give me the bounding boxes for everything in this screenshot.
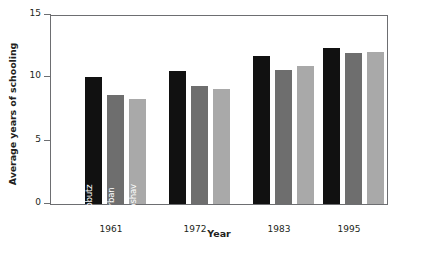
bar-1961-moshav[interactable]: Moshav (129, 99, 146, 204)
bar-1961-kibbutz[interactable]: Kibbutz (85, 77, 102, 204)
y-axis-title: Average years of schooling (4, 10, 22, 218)
plot-area: 0 5 10 15 Kibbutz Urban Moshav (50, 15, 388, 205)
bar-1983-urban[interactable] (275, 70, 292, 204)
y-tick-label-5: 5 (35, 134, 41, 144)
bar-1972-urban[interactable] (191, 86, 208, 204)
bar-1972-moshav[interactable] (213, 89, 230, 204)
bar-group-1983 (253, 16, 315, 204)
bar-label-kibbutz: Kibbutz (84, 185, 94, 216)
bar-1995-kibbutz[interactable] (323, 48, 340, 204)
bar-label-urban: Urban (106, 188, 116, 213)
y-tick-5: 5 (44, 140, 51, 141)
y-tick-label-0: 0 (35, 197, 41, 207)
bar-group-1972 (169, 16, 231, 204)
y-tick-10: 10 (44, 76, 51, 77)
bar-1972-kibbutz[interactable] (169, 71, 186, 204)
x-axis-title: Year (50, 228, 388, 239)
bar-label-moshav: Moshav (128, 184, 138, 216)
bars-layer: Kibbutz Urban Moshav (51, 16, 387, 204)
y-tick-0: 0 (44, 203, 51, 204)
bar-1983-kibbutz[interactable] (253, 56, 270, 204)
bar-1961-urban[interactable]: Urban (107, 95, 124, 204)
y-tick-label-10: 10 (30, 70, 41, 80)
bar-1995-moshav[interactable] (367, 52, 384, 204)
bar-group-1995 (323, 16, 385, 204)
bar-chart-figure: Average years of schooling 0 5 10 15 Kib… (0, 0, 423, 262)
y-tick-label-15: 15 (30, 8, 41, 18)
bar-group-1961: Kibbutz Urban Moshav (85, 16, 147, 204)
y-tick-15: 15 (44, 14, 51, 15)
bar-1995-urban[interactable] (345, 53, 362, 204)
bar-1983-moshav[interactable] (297, 66, 314, 204)
